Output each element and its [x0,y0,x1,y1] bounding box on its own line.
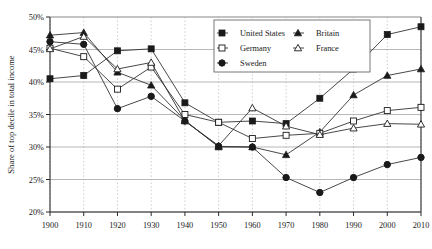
data-point [216,119,222,125]
data-point [81,41,87,47]
data-point [249,144,255,150]
data-point [114,106,120,112]
chart-legend: United StatesBritainGermanyFranceSweden [214,20,370,72]
data-point [384,32,390,38]
y-axis-title: Share of top decile in total income [6,55,16,174]
chart-canvas: 20%25%30%35%40%45%50% 190019101920193019… [0,0,432,249]
legend-label: France [316,44,339,53]
y-tick-label: 25% [29,176,44,185]
data-point [249,136,255,142]
data-point [148,93,154,99]
data-point [384,108,390,114]
y-tick-label: 40% [29,78,44,87]
data-point [351,118,357,124]
x-tick-label: 1900 [42,221,59,230]
x-axis-tick-labels: 1900191019201930194019501960197019801990… [42,221,430,230]
data-point [418,154,424,160]
data-point [216,143,222,149]
x-tick-label: 1950 [210,221,227,230]
data-point [114,48,120,54]
data-point [249,118,255,124]
data-point [249,104,256,110]
data-point [283,174,289,180]
x-tick-label: 1990 [345,221,362,230]
x-tick-label: 2010 [413,221,430,230]
y-axis-title-text: Share of top decile in total income [6,55,16,174]
x-tick-label: 1940 [177,221,194,230]
legend-label: United States [240,29,285,38]
legend-box [214,20,370,72]
data-point [219,60,225,66]
data-point [148,59,155,65]
y-tick-label: 20% [29,208,44,217]
legend-label: Germany [240,44,272,53]
data-point [182,118,188,124]
data-point [148,82,155,88]
data-point [417,65,424,71]
y-tick-label: 30% [29,143,44,152]
data-point [47,39,53,45]
x-tick-label: 1930 [143,221,160,230]
data-point [182,100,188,106]
x-tick-label: 2000 [379,221,396,230]
legend-label: Sweden [240,59,267,68]
data-point [114,86,120,92]
x-tick-label: 1980 [312,221,329,230]
data-point [418,24,424,30]
data-point [219,45,225,51]
data-point [418,104,424,110]
data-point [81,73,87,79]
data-point [350,91,357,97]
data-point [283,132,289,138]
y-tick-label: 45% [29,46,44,55]
data-point [219,30,225,36]
y-axis-tick-labels: 20%25%30%35%40%45%50% [29,13,44,217]
y-tick-label: 50% [29,13,44,22]
data-point [350,174,356,180]
data-point [148,46,154,52]
x-tick-label: 1960 [244,221,261,230]
y-tick-label: 35% [29,111,44,120]
data-point [384,161,390,167]
data-point [317,95,323,101]
data-point [47,76,53,82]
x-tick-label: 1920 [109,221,126,230]
data-point [81,54,87,60]
data-point [317,189,323,195]
x-tick-label: 1910 [75,221,92,230]
legend-label: Britain [316,29,340,38]
x-tick-label: 1970 [278,221,295,230]
x-axis-ticks [50,212,421,216]
income-share-line-chart: 20%25%30%35%40%45%50% 190019101920193019… [0,0,432,249]
